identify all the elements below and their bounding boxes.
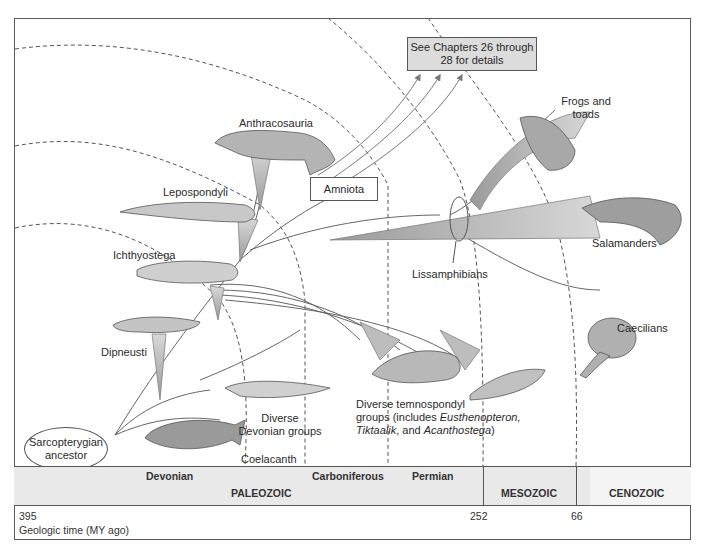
era-cenozoic: CENOZOIC bbox=[609, 487, 664, 499]
chapters-callout-box: See Chapters 26 through 28 for details bbox=[407, 37, 537, 71]
callout-line-1: See Chapters 26 through bbox=[411, 41, 534, 54]
temnospondyl-line-2: groups (includes Eusthenopteron, bbox=[356, 411, 521, 424]
paleozoic-mesozoic-divider bbox=[483, 467, 484, 505]
cenozoic-cell bbox=[590, 467, 691, 505]
label-anthracosauria: Anthracosauria bbox=[239, 117, 313, 130]
ichthyostega-illustration bbox=[137, 261, 238, 283]
temnospondyl-line-3: Tiktaalik, and Acanthostega) bbox=[356, 424, 521, 437]
geologic-era-band: Devonian Carboniferous Permian PALEOZOIC… bbox=[14, 466, 691, 506]
amniota-arrows bbox=[318, 75, 462, 185]
phylogeny-diagram: See Chapters 26 through 28 for details A… bbox=[0, 0, 705, 556]
label-diverse-devonian-groups: Diverse Devonian groups bbox=[238, 412, 322, 438]
label-frogs-and-toads: Frogs and toads bbox=[556, 95, 616, 121]
lepospondyli-illustration bbox=[120, 202, 255, 222]
geologic-time-axis: 395 252 66 Geologic time (MY ago) bbox=[14, 506, 691, 540]
coelacanth-illustration bbox=[145, 420, 245, 449]
dipneusti-illustration bbox=[113, 317, 200, 332]
frogs-line-2: toads bbox=[556, 108, 616, 121]
devonian-fish-illustration bbox=[225, 381, 330, 397]
anthracosauria-illustration bbox=[215, 130, 335, 175]
label-dipneusti: Dipneusti bbox=[101, 346, 147, 359]
lineage-wedges bbox=[152, 112, 600, 400]
period-devonian: Devonian bbox=[146, 470, 193, 482]
sarcopterygian-ancestor-node: Sarcopterygian ancestor bbox=[24, 427, 108, 471]
label-coelacanth: Coelacanth bbox=[241, 453, 297, 466]
period-carboniferous: Carboniferous bbox=[312, 470, 384, 482]
era-mesozoic: MESOZOIC bbox=[501, 487, 557, 499]
label-lissamphibians: Lissamphibians bbox=[412, 268, 488, 281]
frogs-line-1: Frogs and bbox=[556, 95, 616, 108]
label-ichthyostega: Ichthyostega bbox=[113, 249, 175, 262]
temnospondyl-2-illustration bbox=[470, 369, 545, 400]
tick-252: 252 bbox=[470, 510, 488, 522]
period-permian: Permian bbox=[412, 470, 453, 482]
temnospondyl-illustration bbox=[372, 351, 460, 383]
tick-395: 395 bbox=[19, 510, 37, 522]
mesozoic-cenozoic-divider bbox=[576, 467, 577, 505]
axis-label: Geologic time (MY ago) bbox=[19, 524, 129, 536]
root-label-line-2: ancestor bbox=[29, 449, 103, 462]
label-temnospondyl-groups: Diverse temnospondyl groups (includes Eu… bbox=[356, 398, 521, 437]
callout-line-2: 28 for details bbox=[411, 54, 534, 67]
amniota-box: Amniota bbox=[310, 177, 378, 201]
label-lepospondyli: Lepospondyli bbox=[163, 186, 228, 199]
label-caecilians: Caecilians bbox=[617, 322, 668, 335]
devonian-label-line-1: Diverse bbox=[238, 412, 322, 425]
temnospondyl-line-1: Diverse temnospondyl bbox=[356, 398, 521, 411]
devonian-label-line-2: Devonian groups bbox=[238, 425, 322, 438]
root-label-line-1: Sarcopterygian bbox=[29, 436, 103, 449]
era-paleozoic: PALEOZOIC bbox=[231, 487, 291, 499]
tick-66: 66 bbox=[571, 510, 583, 522]
label-salamanders: Salamanders bbox=[592, 237, 657, 250]
arc-1 bbox=[15, 45, 388, 466]
